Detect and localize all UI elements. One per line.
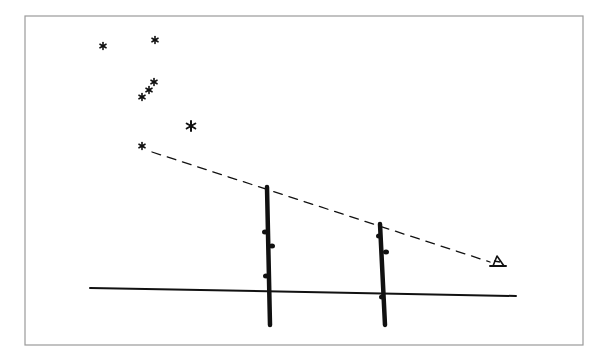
pole-knot (262, 230, 268, 235)
pole-knot (269, 244, 275, 249)
star-cluster (100, 37, 195, 150)
ground-line (90, 288, 516, 296)
poles (262, 187, 389, 325)
star-icon (139, 94, 145, 101)
sightline-dashed (152, 152, 490, 262)
observer-eye-icon (490, 256, 506, 266)
star-icon (139, 143, 145, 150)
pole-knot (263, 274, 269, 279)
star-icon (187, 121, 196, 131)
star-icon (100, 43, 106, 50)
star-icon (146, 87, 152, 94)
star-icon (152, 37, 158, 44)
pole-knot (376, 234, 382, 239)
far-pole (376, 224, 389, 325)
pole-knot (379, 295, 385, 300)
sketch-diagram (0, 0, 607, 364)
near-pole (262, 187, 275, 325)
star-icon (151, 79, 157, 86)
pole-knot (383, 250, 389, 255)
